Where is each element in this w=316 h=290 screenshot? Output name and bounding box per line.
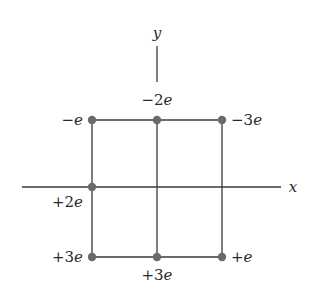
label-top-right: −3e [231,111,262,129]
charge-middle-left [88,183,96,191]
label-bottom-left: +3e [52,248,83,266]
charge-bottom-right [218,253,226,261]
x-axis-label: x [289,178,298,196]
charge-diagram: y x −e −2e −3e +2e +3e +3e +e [0,0,316,290]
label-middle-left: +2e [52,193,83,211]
label-bottom-right: +e [231,248,253,266]
y-axis-label: y [152,24,162,42]
charge-bottom-left [88,253,96,261]
charge-top-right [218,116,226,124]
charge-bottom-middle [153,253,161,261]
label-top-middle: −2e [141,91,172,109]
label-top-left: −e [62,111,84,129]
label-bottom-middle: +3e [141,266,172,284]
charge-top-left [88,116,96,124]
charge-top-middle [153,116,161,124]
